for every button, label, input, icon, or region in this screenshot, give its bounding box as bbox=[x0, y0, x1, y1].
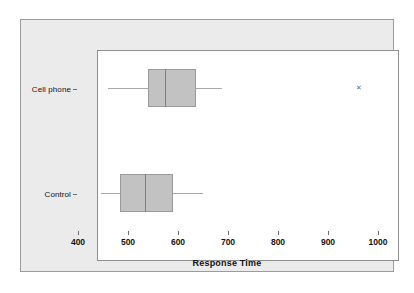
boxplot-figure: Cell phone Control 400 500 600 700 800 9… bbox=[0, 0, 414, 293]
x-tick-1000 bbox=[378, 231, 379, 235]
x-axis-title: Response Time bbox=[76, 258, 378, 268]
y-category-label-control: Control bbox=[19, 190, 71, 199]
boxplot-data-layer: ✕ bbox=[77, 30, 377, 240]
median-line bbox=[145, 174, 146, 212]
box-rect bbox=[120, 174, 173, 212]
box-control bbox=[77, 30, 377, 240]
y-category-label-cell-phone: Cell phone bbox=[19, 85, 71, 94]
